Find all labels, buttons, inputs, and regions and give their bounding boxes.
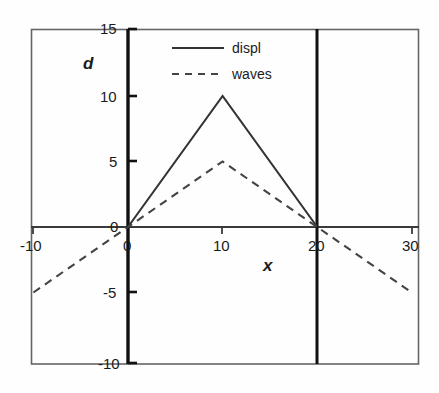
plot-frame (32, 30, 419, 365)
x-tick-label-20: 20 (308, 238, 325, 253)
y-axis-title: d (83, 55, 93, 72)
y-tick-label-15: 15 (100, 21, 117, 36)
y-tick-label-5: 5 (109, 154, 117, 169)
chart-container: 15 10 5 0 -5 -10 -10 0 10 20 30 d x disp… (0, 0, 439, 393)
legend-label-waves: waves (232, 67, 272, 81)
plot-area (0, 0, 439, 393)
x-axis-title: x (263, 257, 272, 274)
x-tick-label-10: 10 (213, 238, 230, 253)
y-tick-label-minus5: -5 (103, 285, 116, 300)
x-tick-label-30: 30 (402, 238, 419, 253)
x-tick-label-minus10: -10 (20, 238, 42, 253)
x-tick-label-0: 0 (123, 238, 131, 253)
y-tick-label-minus10: -10 (98, 356, 120, 371)
y-tick-label-0: 0 (110, 219, 118, 234)
legend-label-displ: displ (232, 41, 261, 55)
y-tick-label-10: 10 (100, 89, 117, 104)
